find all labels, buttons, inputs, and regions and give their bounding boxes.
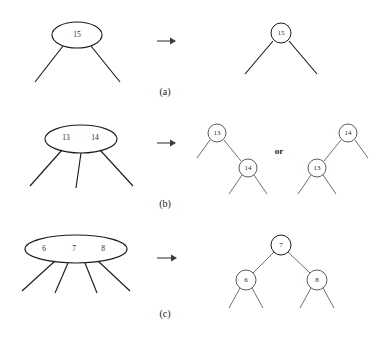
panel-a-left-node-group: 15 xyxy=(35,22,120,82)
panel-c-left-key-6: 6 xyxy=(42,244,46,253)
panel-b-arrow xyxy=(157,140,176,147)
panel-b-left-key-14: 14 xyxy=(91,133,99,142)
panel-c-arrow xyxy=(157,255,177,262)
panel-a-caption: (a) xyxy=(159,86,170,98)
panel-b-v1-link-1 xyxy=(224,140,241,161)
panel-b-caption: (b) xyxy=(159,198,171,210)
panel-c-left-key-7: 7 xyxy=(72,244,76,253)
panel-c-link-1 xyxy=(253,252,274,273)
panel-a-right-stub-2 xyxy=(289,41,317,74)
panel-b-v1-stub-3 xyxy=(254,175,267,194)
panel-c-left-key-8: 8 xyxy=(101,244,105,253)
panel-b-left-edge-2 xyxy=(76,153,81,188)
panel-c-link-2 xyxy=(288,252,310,273)
panel-c-left-edge-1 xyxy=(22,261,55,291)
panel-b-right-tree-variant-1: 13 14 xyxy=(197,124,267,194)
panel-a-right-node-15-label: 15 xyxy=(278,29,286,37)
panel-c-node-6-label: 6 xyxy=(244,276,248,284)
panel-b-v2-node-13-label: 13 xyxy=(314,164,322,172)
panel-b-left-edge-3 xyxy=(100,150,133,186)
panel-b-v2-link-1 xyxy=(324,140,341,161)
panel-c-left-ellipse xyxy=(25,235,127,263)
panel-b-v2-stub-3 xyxy=(323,175,336,194)
panel-b-v1-stub-2 xyxy=(229,175,242,194)
panel-b-v1-node-14-label: 14 xyxy=(245,164,253,172)
panel-a-right-tree: 15 xyxy=(245,23,317,74)
panel-b-v1-node-13-label: 13 xyxy=(214,129,222,137)
panel-c-stub-4 xyxy=(323,288,334,308)
panel-c-node-8-label: 8 xyxy=(315,276,319,284)
panel-c-stub-1 xyxy=(229,288,240,308)
panel-b-left-key-13: 13 xyxy=(62,133,70,142)
panel-c-caption: (c) xyxy=(159,308,170,320)
panel-c-left-node-group: 6 7 8 xyxy=(22,235,130,293)
panel-c-node-7-label: 7 xyxy=(279,241,283,249)
panel-c-left-edge-2 xyxy=(55,263,68,293)
panel-a-right-stub-1 xyxy=(245,41,273,74)
panel-a-arrow xyxy=(157,38,176,45)
panel-b-or-label: or xyxy=(275,146,284,156)
panel-b-left-edge-1 xyxy=(30,150,62,186)
panel-b-v2-stub-1 xyxy=(355,140,368,158)
panel-b-v1-stub-1 xyxy=(197,140,210,158)
panel-c-stub-2 xyxy=(252,288,263,308)
panel-a: 15 15 (a) xyxy=(35,22,317,98)
panel-a-left-edge-1 xyxy=(35,46,63,82)
panel-c-left-edge-3 xyxy=(85,263,97,293)
arrow-head-icon xyxy=(170,140,176,147)
panel-b-left-node-group: 13 14 xyxy=(30,125,133,188)
panel-b: 13 14 13 14 or 14 13 (b) xyxy=(30,124,368,210)
arrow-head-icon xyxy=(170,38,176,45)
panel-b-v2-stub-2 xyxy=(298,175,311,194)
panel-c-right-tree: 7 6 8 xyxy=(229,235,334,308)
arrow-head-icon xyxy=(171,255,177,262)
panel-c-stub-3 xyxy=(300,288,311,308)
panel-a-left-edge-2 xyxy=(91,46,120,82)
panel-b-right-tree-variant-2: 14 13 xyxy=(298,124,368,194)
panel-a-left-key-15: 15 xyxy=(73,30,81,39)
btree-split-figure: 15 15 (a) 13 14 xyxy=(0,0,385,341)
panel-b-v2-node-14-label: 14 xyxy=(345,129,353,137)
panel-c: 6 7 8 7 6 8 (c) xyxy=(22,235,334,320)
panel-b-left-ellipse xyxy=(45,125,117,153)
panel-c-left-edge-4 xyxy=(98,261,130,291)
